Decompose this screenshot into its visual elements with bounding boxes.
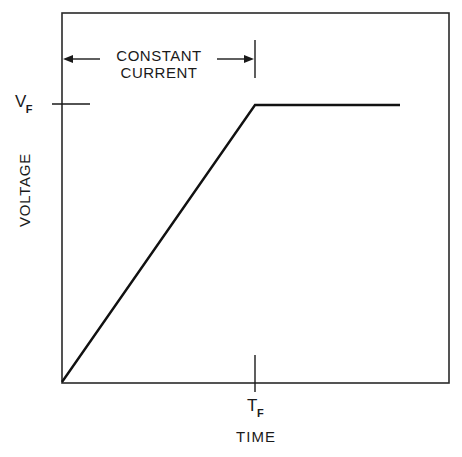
constant-current-annotation: CONSTANT CURRENT (104, 48, 214, 82)
annotation-line-2: CURRENT (104, 65, 214, 81)
vf-marker-label: VF (15, 92, 34, 112)
annotation-line-1: CONSTANT (104, 48, 214, 64)
vf-subscript: F (26, 103, 33, 115)
voltage-time-diagram (0, 0, 462, 457)
y-axis-label: VOLTAGE (16, 153, 33, 227)
x-axis-label: TIME (236, 428, 276, 445)
arrow-right-icon (217, 55, 254, 63)
voltage-curve (62, 105, 400, 382)
tf-subscript: F (257, 407, 264, 419)
tf-marker-label: TF (247, 396, 265, 416)
arrow-left-icon (63, 55, 100, 63)
